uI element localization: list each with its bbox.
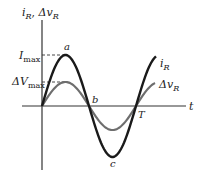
- y-axis-label: iR, ΔvR: [22, 6, 59, 21]
- point-b-label: b: [92, 94, 98, 105]
- plot: iR, ΔvR Imax ΔVmax a b c T t iR ΔvR: [0, 0, 202, 174]
- resistor-current-voltage-diagram: iR, ΔvR Imax ΔVmax a b c T t iR ΔvR: [0, 0, 202, 174]
- point-a-label: a: [64, 41, 70, 52]
- t-axis-label: t: [189, 100, 194, 113]
- period-T-label: T: [138, 109, 146, 120]
- dv-r-curve-label: ΔvR: [158, 78, 179, 93]
- imax-label: Imax: [18, 49, 41, 64]
- dvmax-label: ΔVmax: [11, 75, 45, 90]
- point-c-label: c: [110, 158, 116, 169]
- i-r-curve-label: iR: [160, 57, 170, 72]
